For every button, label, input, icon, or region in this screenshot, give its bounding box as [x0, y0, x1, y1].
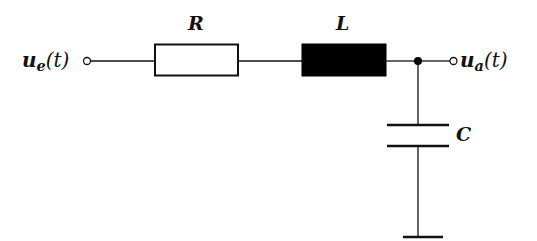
- capacitor-label: C: [456, 125, 471, 144]
- output-terminal: [450, 58, 457, 65]
- output-argument: (t): [484, 48, 508, 72]
- output-voltage-label: ua(t): [460, 50, 508, 73]
- input-argument: (t): [46, 48, 70, 72]
- input-symbol: u: [22, 48, 37, 72]
- resistor-label: R: [188, 14, 204, 33]
- inductor-label-text: L: [336, 12, 349, 34]
- output-symbol: u: [460, 48, 475, 72]
- inductor-l: [302, 44, 386, 76]
- resistor-label-text: R: [188, 12, 204, 34]
- capacitor-label-text: C: [456, 123, 471, 145]
- input-subscript: e: [37, 57, 46, 74]
- input-terminal: [84, 58, 91, 65]
- output-subscript: a: [475, 57, 484, 74]
- inductor-label: L: [336, 14, 349, 33]
- input-voltage-label: ue(t): [22, 50, 69, 73]
- resistor-r: [155, 45, 238, 76]
- circuit-diagram: ue(t) R L ua(t) C: [0, 0, 537, 241]
